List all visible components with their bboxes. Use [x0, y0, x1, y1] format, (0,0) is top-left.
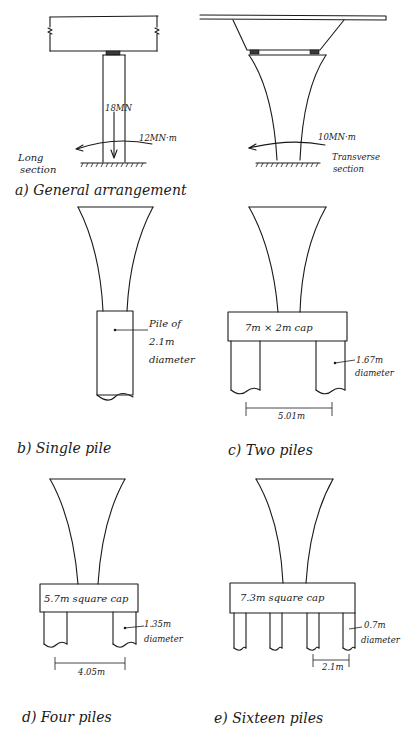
pile-d-right [113, 612, 136, 647]
ground-hatch-transverse [256, 163, 320, 167]
pile-e-4 [343, 613, 355, 650]
transverse-section-label: Transverse [332, 152, 380, 162]
pier-flare-b [78, 207, 153, 311]
caption-c: c) Two piles [228, 442, 313, 458]
single-pile-view: Pile of 2.1m diameter [78, 207, 196, 400]
sixteen-piles-view: 7.3m square cap 0.7m diameter 2.1m [230, 479, 401, 672]
ground-hatch-long [81, 163, 146, 167]
pile-label-b-2: 2.1m [148, 336, 174, 347]
two-piles-view: 7m × 2m cap 1.67m diameter 5.01m [228, 207, 395, 421]
pier-flare-d [50, 479, 125, 584]
pile-diameter-d: 1.35m [144, 619, 171, 629]
transverse-section-label-2: section [333, 164, 364, 174]
pile-label-b-3: diameter [149, 354, 196, 365]
cap-label-c: 7m × 2m cap [245, 322, 313, 333]
moment-label-long: 12MN·m [139, 133, 177, 143]
moment-label-transverse: 10MN·m [318, 132, 356, 142]
long-section-label-2: section [20, 164, 56, 175]
spacing-label-d: 4.05m [77, 667, 105, 677]
caption-e: e) Sixteen piles [214, 710, 323, 726]
caption-d: d) Four piles [22, 709, 112, 725]
pile-diameter-word-e: diameter [361, 635, 401, 645]
pile-foundation-diagram: 18MN 12MN·m Long section 10MN·m [0, 0, 419, 744]
pier-flare-c [249, 207, 326, 312]
pier-transverse-section [249, 55, 326, 160]
long-section-label: Long [17, 152, 44, 163]
caption-b: b) Single pile [17, 440, 111, 456]
cap-label-d: 5.7m square cap [44, 593, 129, 604]
pile-e-3 [307, 613, 319, 650]
deck-long-section [48, 16, 159, 51]
spacing-label-e: 2.1m [321, 662, 344, 672]
vertical-load-arrow [111, 112, 117, 158]
pile-e-1 [234, 613, 246, 650]
moment-arrow-transverse [249, 142, 325, 150]
pile-e-2 [270, 613, 282, 650]
pile-diameter-c: 1.67m [356, 355, 383, 365]
pile-b [97, 311, 133, 400]
spacing-label-c: 5.01m [278, 411, 305, 421]
cap-label-e: 7.3m square cap [240, 592, 325, 603]
pile-d-left [44, 612, 67, 647]
pile-label-b-1: Pile of [148, 318, 183, 329]
pile-diameter-e: 0.7m [364, 620, 386, 630]
caption-a: a) General arrangement [15, 182, 187, 198]
bearing-left [250, 50, 259, 54]
deck-transverse-section [200, 15, 386, 50]
pier-flare-e [256, 479, 333, 583]
bearing-long [106, 51, 120, 55]
long-section-view: 18MN 12MN·m Long section [17, 16, 177, 175]
bearing-right [310, 50, 319, 54]
pile-leader-d [125, 626, 144, 628]
pile-diameter-word-d: diameter [144, 634, 184, 644]
pile-c-right [316, 341, 345, 394]
pile-diameter-word-c: diameter [355, 368, 395, 378]
four-piles-view: 5.7m square cap 1.35m diameter 4.05m [40, 479, 184, 677]
vertical-load-label: 18MN [105, 103, 133, 113]
pile-c-left [231, 341, 260, 394]
transverse-section-view: 10MN·m Transverse section [200, 15, 386, 174]
